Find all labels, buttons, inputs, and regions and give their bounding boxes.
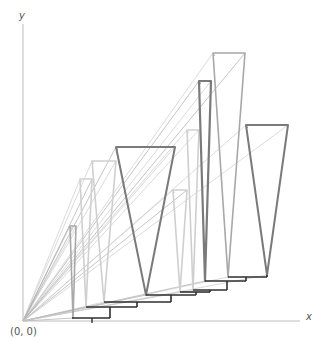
ray-line bbox=[23, 161, 116, 321]
trap-4 bbox=[116, 147, 175, 295]
staircase-base bbox=[72, 275, 267, 318]
x-axis-label: x bbox=[306, 311, 312, 322]
trap-8 bbox=[213, 53, 245, 277]
ray-line bbox=[23, 275, 267, 321]
y-axis-label: y bbox=[19, 10, 25, 21]
trap-7 bbox=[199, 81, 211, 281]
trap-9 bbox=[246, 125, 288, 275]
ray-line bbox=[23, 81, 211, 321]
ray-lines bbox=[23, 53, 288, 321]
trap-6 bbox=[187, 130, 199, 290]
origin-label: (0, 0) bbox=[10, 326, 37, 337]
diagram-canvas bbox=[0, 0, 325, 350]
ray-line bbox=[23, 125, 246, 321]
trap-1 bbox=[70, 226, 76, 318]
trapezoid-shapes bbox=[70, 53, 288, 318]
ray-line bbox=[23, 53, 213, 321]
